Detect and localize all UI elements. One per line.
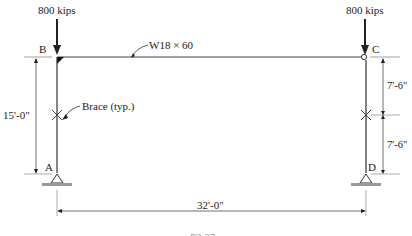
node-label-b: B: [39, 43, 46, 55]
pin-joint-icon: [361, 54, 366, 59]
load-arrow-c: [361, 19, 369, 55]
load-label-b: 800 kips: [38, 4, 76, 16]
rigid-joint-icon: [57, 57, 64, 64]
load-arrow-b: [53, 19, 61, 55]
dim-left-height-label: 15'-0": [3, 109, 30, 121]
pin-support-d: [351, 174, 381, 186]
beam-section-label: W18 × 60: [149, 39, 193, 51]
brace-label: Brace (typ.): [82, 100, 135, 112]
pin-support-a: [42, 174, 72, 186]
dimension-right: [371, 59, 400, 174]
node-label-c: C: [372, 43, 379, 55]
load-label-c: 800 kips: [346, 4, 384, 16]
figure-caption-cutoff: P3.27: [190, 231, 224, 236]
node-label-d: D: [368, 161, 376, 173]
dim-right-upper-label: 7'-6": [387, 80, 407, 92]
dim-right-lower-label: 7'-6": [387, 139, 407, 151]
node-label-a: A: [45, 161, 53, 173]
dim-span-label: 32'-0": [197, 199, 224, 211]
